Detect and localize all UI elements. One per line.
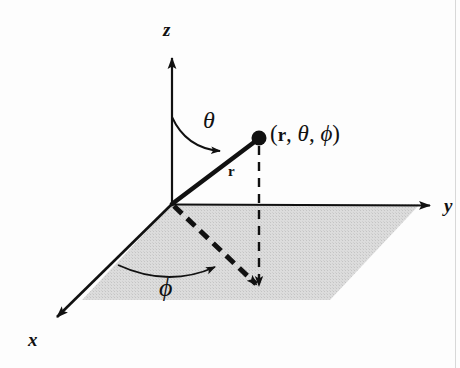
z-axis-label: z: [163, 20, 170, 39]
figure-root: z y x θ ϕ r (r, θ, ϕ): [0, 0, 460, 368]
theta-angle-label: θ: [203, 108, 215, 132]
paren-open: (: [270, 121, 278, 146]
spherical-coordinates-diagram: [0, 0, 460, 368]
separator-1: ,: [286, 121, 298, 146]
paren-close: ): [332, 121, 340, 146]
xy-plane: [82, 204, 420, 300]
y-axis: [172, 205, 430, 206]
r-symbol: r: [278, 124, 286, 145]
phi-angle-label: ϕ: [159, 275, 172, 301]
point-coordinate-label: (r, θ, ϕ): [270, 122, 340, 145]
theta-symbol: θ: [298, 121, 309, 146]
separator-2: ,: [309, 121, 321, 146]
x-axis-label: x: [28, 330, 38, 349]
page-edge-line: [455, 0, 456, 368]
y-axis-label: y: [444, 196, 452, 215]
phi-symbol: ϕ: [320, 121, 332, 146]
radius-label: r: [228, 164, 235, 179]
coordinate-point: [252, 131, 267, 146]
